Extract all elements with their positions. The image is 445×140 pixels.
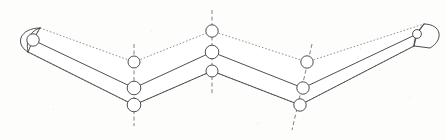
body-faces — [28, 24, 424, 105]
right-knuckle-middle-pin — [297, 82, 309, 94]
left-end-pin — [27, 34, 39, 46]
center-apex-middle-pin — [205, 45, 219, 59]
right-knuckle-upper-pin — [301, 56, 313, 68]
left-knuckle-lower-pin — [127, 98, 141, 112]
technical-drawing-figure — [0, 0, 445, 140]
right-knuckle-lower-pin — [294, 99, 306, 111]
center-apex-lower-pin — [206, 65, 218, 77]
right-end-pin — [413, 30, 422, 39]
center-apex-upper-pin — [206, 25, 218, 37]
left-knuckle-middle-pin — [127, 81, 141, 95]
linkage-beam-svg — [0, 0, 445, 140]
left-knuckle-upper-pin — [128, 56, 140, 68]
